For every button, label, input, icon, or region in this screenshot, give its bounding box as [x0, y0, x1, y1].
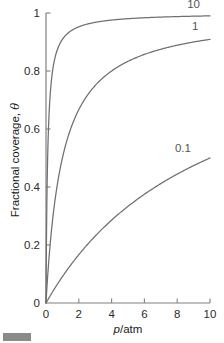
x-axis-title: p/atm: [113, 323, 143, 335]
x-tick-label: 8: [174, 308, 180, 320]
y-tick-label: 1: [34, 7, 40, 19]
y-tick-label: 0.2: [24, 239, 40, 251]
data-curves: [46, 16, 210, 303]
y-tick-label: 0.6: [24, 123, 40, 135]
axis-ticks: [46, 13, 210, 303]
x-tick-label: 4: [108, 308, 115, 320]
x-tick-label: 2: [76, 308, 82, 320]
svg-text:p/atm: p/atm: [113, 323, 143, 335]
curve-label-0.1: 0.1: [175, 142, 191, 154]
corner-gray-bar: [3, 333, 31, 341]
curve-K-1: [46, 39, 210, 303]
y-tick-label: 0: [34, 297, 40, 309]
svg-text:Fractional coverage, θ: Fractional coverage, θ: [8, 103, 22, 217]
tick-labels: 00.20.40.60.810246810: [24, 7, 216, 320]
curve-K-0.1: [46, 158, 210, 303]
x-tick-label: 6: [141, 308, 147, 320]
y-tick-label: 0.4: [24, 181, 41, 193]
x-tick-label: 10: [204, 308, 217, 320]
x-tick-label: 0: [43, 308, 49, 320]
langmuir-isotherm-figure: 00.20.40.60.810246810 1010.1 Fractional …: [0, 0, 224, 343]
curve-K-10: [46, 16, 210, 303]
curve-labels: 1010.1: [175, 0, 200, 154]
chart-plot-area: 00.20.40.60.810246810 1010.1 Fractional …: [0, 0, 224, 343]
curve-label-1: 1: [192, 20, 198, 32]
y-axis-title: Fractional coverage, θ: [8, 103, 22, 217]
y-tick-label: 0.8: [24, 65, 40, 77]
axes: [46, 13, 210, 303]
curve-label-10: 10: [187, 0, 200, 10]
